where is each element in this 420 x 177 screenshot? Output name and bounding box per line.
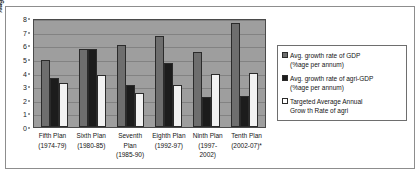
bar — [193, 52, 202, 127]
x-axis-label: SeventhPlan(1985-90) — [111, 131, 150, 160]
bar — [135, 93, 144, 127]
y-tick-mark — [28, 100, 30, 101]
legend-item: Targeted Average AnnualGrow th Rate of a… — [282, 97, 403, 115]
y-tick-mark — [28, 73, 30, 74]
x-axis-label-line: (1974-79) — [33, 141, 72, 151]
x-axis-label-line: Fifth Plan — [33, 131, 72, 141]
bar — [164, 63, 173, 127]
bar-group — [112, 20, 150, 127]
y-tick-label: 4 — [11, 70, 27, 77]
bar — [231, 23, 240, 127]
y-tick-label: 7 — [11, 29, 27, 36]
x-axis-label: Fifth Plan(1974-79) — [33, 131, 72, 160]
bar-group — [225, 20, 263, 127]
y-tick-mark — [28, 59, 30, 60]
x-axis-labels: Fifth Plan(1974-79)Sixth Plan(1980-85)Se… — [33, 131, 266, 160]
x-axis-label-line: Eighth Plan — [149, 131, 188, 141]
x-axis-label-line: Sixth Plan — [72, 131, 111, 141]
bar — [240, 96, 249, 127]
x-axis-label-line: (1997- — [188, 141, 227, 151]
legend-label-line: Targeted Average Annual — [290, 97, 363, 106]
legend-item: Avg. growth rate of agri-GDP(%age per an… — [282, 74, 403, 92]
bars-layer — [34, 20, 265, 127]
bar-group — [36, 20, 74, 127]
y-tick-label: 1 — [11, 111, 27, 118]
y-tick-mark — [28, 128, 30, 129]
legend-swatch-icon — [282, 75, 288, 81]
legend-label-line: (%age per annum) — [290, 83, 373, 92]
y-tick-label: 8 — [11, 16, 27, 23]
x-axis-label-line: Seventh — [111, 131, 150, 141]
x-axis-label-line: Ninth Plan — [188, 131, 227, 141]
x-axis-label: Ninth Plan(1997-2002) — [188, 131, 227, 160]
y-tick-label: 3 — [11, 84, 27, 91]
x-axis-label-line: (1985-90) — [111, 150, 150, 160]
x-axis-label-line: Tenth Plan — [227, 131, 266, 141]
x-axis-label-line: (1980-85) — [72, 141, 111, 151]
bar — [155, 36, 164, 127]
y-tick-label: 6 — [11, 43, 27, 50]
bar — [249, 73, 258, 128]
y-axis-ticks: 012345678 — [14, 19, 30, 128]
y-tick-mark — [28, 46, 30, 47]
bar — [126, 85, 135, 127]
legend-swatch-icon — [282, 52, 288, 58]
x-axis-label-line: Plan — [111, 141, 150, 151]
bar — [59, 83, 68, 127]
chart-figure: %age growth rate 012345678 Fifth Plan(19… — [0, 0, 420, 177]
legend-label: Avg. growth rate of agri-GDP(%age per an… — [290, 74, 373, 92]
x-axis-label: Sixth Plan(1980-85) — [72, 131, 111, 160]
chart-legend: Avg. growth rate of GDP(%age per annum)A… — [277, 45, 407, 121]
bar — [211, 74, 220, 127]
legend-label: Targeted Average AnnualGrow th Rate of a… — [290, 97, 363, 115]
bar — [202, 97, 211, 127]
x-axis-label-line: (2002-07)* — [227, 141, 266, 151]
x-axis-label: Eighth Plan(1992-97) — [149, 131, 188, 160]
plot-area — [33, 19, 266, 128]
bar — [117, 45, 126, 127]
legend-item: Avg. growth rate of GDP(%age per annum) — [282, 51, 403, 69]
bar-group — [149, 20, 187, 127]
bar — [97, 75, 106, 127]
bar — [173, 85, 182, 127]
bar-group — [74, 20, 112, 127]
legend-label: Avg. growth rate of GDP(%age per annum) — [290, 51, 360, 69]
plot-wrap — [33, 19, 266, 128]
y-tick-mark — [28, 32, 30, 33]
x-axis-label-line: 2002) — [188, 150, 227, 160]
y-tick-label: 0 — [11, 125, 27, 132]
legend-swatch-icon — [282, 98, 288, 104]
bar — [79, 49, 88, 127]
x-axis-label-line: (1992-97) — [149, 141, 188, 151]
y-axis-title: %age growth rate — [0, 0, 3, 14]
x-axis-label: Tenth Plan(2002-07)* — [227, 131, 266, 160]
bar — [88, 49, 97, 127]
y-tick-mark — [28, 114, 30, 115]
legend-label-line: Avg. growth rate of GDP — [290, 51, 360, 60]
legend-label-line: (%age per annum) — [290, 60, 360, 69]
y-tick-mark — [28, 19, 30, 20]
legend-label-line: Grow th Rate of agri — [290, 106, 363, 115]
y-tick-mark — [28, 87, 30, 88]
bar — [50, 78, 59, 127]
legend-label-line: Avg. growth rate of agri-GDP — [290, 74, 373, 83]
y-tick-label: 5 — [11, 56, 27, 63]
y-tick-label: 2 — [11, 97, 27, 104]
bar-group — [187, 20, 225, 127]
bar — [41, 60, 50, 127]
